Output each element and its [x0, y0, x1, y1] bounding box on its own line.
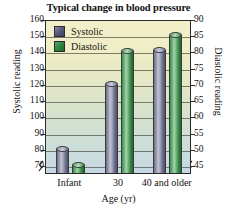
bar-diastolic — [169, 35, 182, 173]
bar-diastolic — [121, 51, 134, 173]
y-axis-left-tick-label: 90 — [16, 129, 44, 139]
y-axis-right-tick-label: 80 — [194, 47, 220, 57]
y-axis-right-tickmark — [191, 150, 195, 151]
y-axis-right-tickmark — [191, 69, 195, 70]
legend-label-systolic: Systolic — [71, 26, 103, 37]
bar-cap — [121, 48, 134, 54]
y-axis-left-tick-label: 130 — [16, 64, 44, 74]
y-axis-right-tickmark — [191, 117, 195, 118]
bar-systolic — [105, 84, 118, 173]
chart-legend: Systolic Diastolic — [54, 25, 107, 55]
legend-item-diastolic: Diastolic — [54, 40, 107, 53]
legend-label-diastolic: Diastolic — [71, 41, 107, 52]
y-axis-right-tickmark — [191, 20, 195, 21]
x-axis-tick-label: 40 and older — [127, 177, 207, 188]
bar-systolic — [153, 50, 166, 173]
y-axis-right-tick-label: 60 — [194, 112, 220, 122]
bar-diastolic — [72, 165, 85, 173]
y-axis-right-tick-label: 90 — [194, 15, 220, 25]
y-axis-left-tick-label: 110 — [16, 96, 44, 106]
blood-pressure-chart: Typical change in blood pressure Systoli… — [0, 0, 237, 207]
bar-cap — [105, 81, 118, 87]
y-axis-right-tickmark — [191, 36, 195, 37]
legend-item-systolic: Systolic — [54, 25, 107, 38]
y-axis-right-tick-label: 55 — [194, 129, 220, 139]
bar-cap — [72, 162, 85, 168]
y-axis-left-tick-label: 160 — [16, 15, 44, 25]
y-axis-right-tick-label: 50 — [194, 145, 220, 155]
y-axis-left-tick-label: 100 — [16, 112, 44, 122]
chart-title: Typical change in blood pressure — [0, 2, 237, 13]
bar-cap — [56, 146, 69, 152]
bar-cap — [169, 32, 182, 38]
legend-swatch-systolic-icon — [54, 26, 65, 37]
y-axis-left-tick-label: 120 — [16, 80, 44, 90]
y-axis-left-tick-label: 140 — [16, 47, 44, 57]
legend-swatch-diastolic-icon — [54, 41, 65, 52]
y-axis-left-tick-label: 80 — [16, 145, 44, 155]
y-axis-right-tick-label: 85 — [194, 31, 220, 41]
y-axis-right-tick-label: 65 — [194, 96, 220, 106]
bar-systolic — [56, 149, 69, 173]
bar-group — [151, 20, 185, 173]
y-axis-right-tick-label: 75 — [194, 64, 220, 74]
y-axis-left-tick-label: 150 — [16, 31, 44, 41]
y-axis-right-tickmark — [191, 85, 195, 86]
plot-area: Systolic Diastolic — [45, 20, 191, 174]
y-axis-right-tickmark — [191, 52, 195, 53]
y-axis-right-tickmark — [191, 101, 195, 102]
y-axis-right-tickmark — [191, 134, 195, 135]
bar-cap — [153, 47, 166, 53]
y-axis-right-tick-label: 70 — [194, 80, 220, 90]
x-axis-title: Age (yr) — [0, 193, 237, 204]
